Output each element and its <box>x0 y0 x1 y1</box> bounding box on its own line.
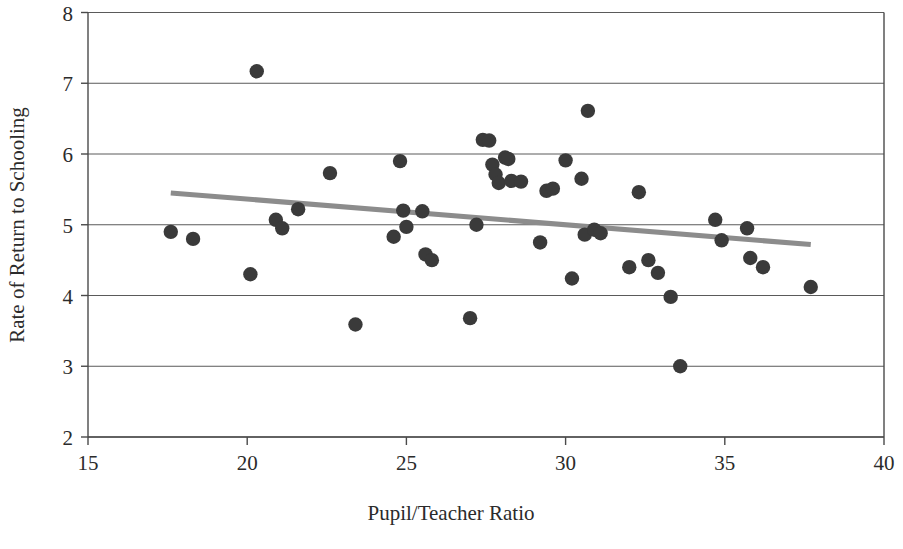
data-point <box>425 253 439 267</box>
data-point <box>546 181 560 195</box>
y-tick-label-2: 2 <box>63 426 74 450</box>
y-tick-label-4: 4 <box>63 285 74 309</box>
chart-canvas: 2345678 152025303540 Pupil/Teacher Ratio… <box>0 0 903 549</box>
data-point <box>291 202 305 216</box>
data-point <box>399 220 413 234</box>
x-axis-title: Pupil/Teacher Ratio <box>367 501 534 525</box>
data-point <box>492 176 506 190</box>
data-point <box>651 266 665 280</box>
data-point <box>164 225 178 239</box>
data-point <box>743 251 757 265</box>
plot-background <box>0 0 903 549</box>
data-point <box>565 271 579 285</box>
data-point <box>673 359 687 373</box>
data-point <box>581 104 595 118</box>
data-point <box>250 64 264 78</box>
scatter-plot-figure: 2345678 152025303540 Pupil/Teacher Ratio… <box>0 0 903 549</box>
y-tick-label-5: 5 <box>63 214 74 238</box>
y-tick-label-7: 7 <box>63 72 74 96</box>
y-axis-title: Rate of Return to Schooling <box>5 107 29 343</box>
data-point <box>275 221 289 235</box>
x-tick-label-25: 25 <box>396 451 417 475</box>
data-point <box>593 226 607 240</box>
data-point <box>574 172 588 186</box>
data-point <box>243 267 257 281</box>
data-point <box>641 253 655 267</box>
data-point <box>393 154 407 168</box>
y-tick-label-8: 8 <box>63 2 74 26</box>
x-tick-label-35: 35 <box>714 451 735 475</box>
data-point <box>708 213 722 227</box>
data-point <box>714 233 728 247</box>
data-point <box>663 290 677 304</box>
data-point <box>622 260 636 274</box>
data-point <box>463 311 477 325</box>
x-tick-label-20: 20 <box>237 451 258 475</box>
data-point <box>386 230 400 244</box>
data-point <box>804 280 818 294</box>
data-point <box>514 174 528 188</box>
data-point <box>533 235 547 249</box>
data-point <box>396 203 410 217</box>
y-tick-label-3: 3 <box>63 355 74 379</box>
data-point <box>469 218 483 232</box>
data-point <box>415 204 429 218</box>
x-tick-label-40: 40 <box>874 451 895 475</box>
data-point <box>323 166 337 180</box>
data-point <box>186 232 200 246</box>
data-point <box>558 153 572 167</box>
y-tick-label-6: 6 <box>63 143 74 167</box>
data-point <box>482 133 496 147</box>
data-point <box>740 221 754 235</box>
x-tick-label-15: 15 <box>78 451 99 475</box>
data-point <box>348 317 362 331</box>
data-point <box>632 185 646 199</box>
data-point <box>756 260 770 274</box>
data-point <box>501 152 515 166</box>
x-tick-label-30: 30 <box>555 451 576 475</box>
